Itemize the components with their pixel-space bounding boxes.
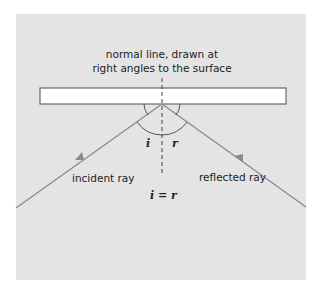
normal-line-label: normal line, drawn at right angles to th… — [0, 47, 324, 75]
reflected-ray — [162, 104, 306, 207]
normal-label-line2: right angles to the surface — [0, 61, 324, 75]
angle-r-arc — [162, 122, 187, 135]
angle-r-label: r — [172, 137, 178, 150]
incident-ray — [16, 104, 162, 208]
angle-i-arc — [137, 122, 162, 135]
angle-i-label: i — [146, 137, 150, 150]
normal-label-line1: normal line, drawn at — [0, 47, 324, 61]
equation-label: i = r — [150, 189, 177, 202]
mirror-surface — [40, 88, 286, 104]
upper-left-arc — [144, 104, 148, 115]
incident-arrow-icon — [75, 152, 84, 160]
reflected-ray-label: reflected ray — [199, 171, 266, 183]
incident-ray-label: incident ray — [72, 172, 134, 184]
reflection-diagram — [0, 0, 324, 287]
reflected-arrow-icon — [234, 154, 243, 162]
upper-right-arc — [176, 104, 180, 115]
